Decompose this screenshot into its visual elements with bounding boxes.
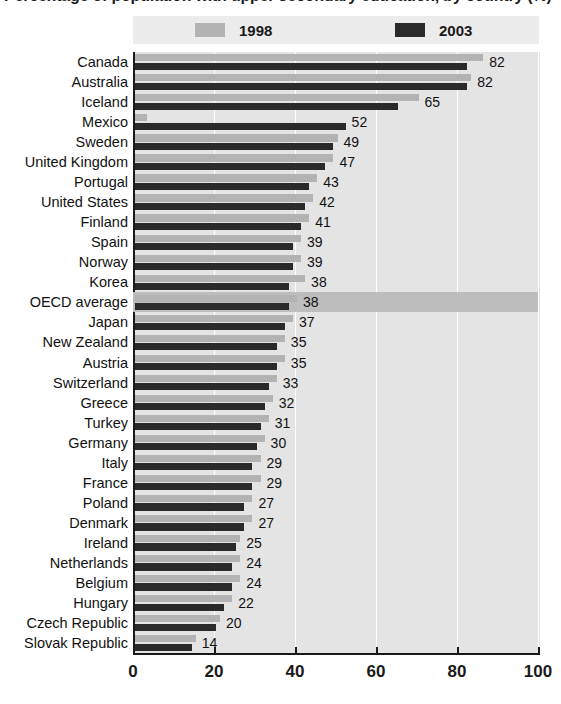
bar-1998[interactable] [135,615,220,622]
bar-2003[interactable] [135,123,346,130]
bar-1998[interactable] [135,134,338,141]
chart-row[interactable]: Australia82 [0,72,561,92]
bar-value-label: 39 [307,255,323,269]
bar-2003[interactable] [135,523,244,530]
bar-2003[interactable] [135,243,293,250]
bar-2003[interactable] [135,503,244,510]
chart-row[interactable]: Denmark27 [0,513,561,533]
bar-1998[interactable] [135,475,261,482]
category-label: Greece [80,396,128,411]
bar-2003[interactable] [135,203,305,210]
bar-2003[interactable] [135,163,325,170]
chart-row[interactable]: OECD average38 [0,292,561,312]
bar-1998[interactable] [135,515,252,522]
bar-1998[interactable] [135,395,273,402]
chart-row[interactable]: United Kingdom47 [0,152,561,172]
bar-2003[interactable] [135,303,289,310]
bar-1998[interactable] [135,154,333,161]
chart-row[interactable]: Mexico52 [0,112,561,132]
bar-1998[interactable] [135,555,240,562]
chart-row[interactable]: Switzerland33 [0,373,561,393]
chart-row[interactable]: Italy29 [0,453,561,473]
category-label: Belgium [76,576,128,591]
bar-2003[interactable] [135,604,224,611]
chart-row[interactable]: New Zealand35 [0,332,561,352]
bar-2003[interactable] [135,323,285,330]
bar-2003[interactable] [135,223,301,230]
chart-row[interactable]: Netherlands24 [0,553,561,573]
bar-2003[interactable] [135,403,265,410]
bar-1998[interactable] [135,355,285,362]
x-tick-label-20: 20 [205,662,224,682]
bar-2003[interactable] [135,343,277,350]
chart-row[interactable]: Spain39 [0,232,561,252]
bar-2003[interactable] [135,463,252,470]
chart-row[interactable]: Ireland25 [0,533,561,553]
bar-2003[interactable] [135,283,289,290]
bar-1998[interactable] [135,495,252,502]
bar-1998[interactable] [135,94,419,101]
bar-2003[interactable] [135,563,232,570]
bar-2003[interactable] [135,423,261,430]
bar-2003[interactable] [135,263,293,270]
chart-row[interactable]: Turkey31 [0,413,561,433]
bar-1998[interactable] [135,214,309,221]
bar-1998[interactable] [135,74,471,81]
bar-1998[interactable] [135,174,317,181]
bar-1998[interactable] [135,575,240,582]
bar-1998[interactable] [135,375,277,382]
legend-entry-1998[interactable]: 1998 [195,22,272,39]
chart-row[interactable]: Iceland65 [0,92,561,112]
bar-1998[interactable] [135,255,301,262]
bar-2003[interactable] [135,183,309,190]
chart-row[interactable]: Japan37 [0,312,561,332]
bar-1998[interactable] [135,54,483,61]
bar-1998[interactable] [135,535,240,542]
bar-2003[interactable] [135,143,333,150]
bar-2003[interactable] [135,543,236,550]
legend-entry-2003[interactable]: 2003 [395,22,472,39]
chart-row[interactable]: Portugal43 [0,172,561,192]
bar-value-label: 42 [319,195,335,209]
chart-row[interactable]: Germany30 [0,433,561,453]
chart-row[interactable]: Korea38 [0,272,561,292]
bar-2003[interactable] [135,644,192,651]
bar-2003[interactable] [135,443,257,450]
bar-2003[interactable] [135,583,232,590]
x-tick-0 [133,647,135,655]
bar-2003[interactable] [135,83,467,90]
bar-1998[interactable] [135,335,285,342]
chart-row[interactable]: Austria35 [0,353,561,373]
bar-1998[interactable] [135,114,147,121]
bar-1998[interactable] [135,415,269,422]
chart-row[interactable]: Hungary22 [0,593,561,613]
chart-row[interactable]: Belgium24 [0,573,561,593]
bar-1998[interactable] [135,235,301,242]
bar-2003[interactable] [135,624,216,631]
bar-2003[interactable] [135,383,269,390]
bar-1998[interactable] [135,194,313,201]
bar-1998[interactable] [135,595,232,602]
chart-row[interactable]: Canada82 [0,52,561,72]
chart-row[interactable]: Greece32 [0,393,561,413]
chart-row[interactable]: Slovak Republic14 [0,633,561,653]
chart-row[interactable]: Poland27 [0,493,561,513]
bar-1998[interactable] [135,315,293,322]
bar-1998[interactable] [135,435,265,442]
chart-row[interactable]: Czech Republic20 [0,613,561,633]
chart-row[interactable]: France29 [0,473,561,493]
category-label: Netherlands [50,556,128,571]
bar-2003[interactable] [135,363,277,370]
bar-2003[interactable] [135,103,398,110]
chart-row[interactable]: United States42 [0,192,561,212]
bar-1998[interactable] [135,295,297,302]
chart-row[interactable]: Sweden49 [0,132,561,152]
chart-row[interactable]: Finland41 [0,212,561,232]
chart-row[interactable]: Norway39 [0,252,561,272]
category-label: Portugal [74,175,128,190]
bar-2003[interactable] [135,63,467,70]
bar-1998[interactable] [135,455,261,462]
bar-1998[interactable] [135,635,196,642]
bar-1998[interactable] [135,275,305,282]
bar-2003[interactable] [135,483,252,490]
